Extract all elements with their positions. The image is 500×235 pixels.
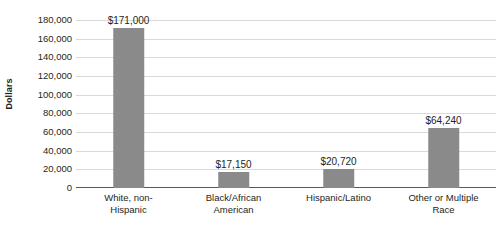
x-axis-category-label: Black/AfricanAmerican <box>181 192 286 215</box>
x-axis-category-label-line: Hispanic/Latino <box>306 192 371 203</box>
y-axis-tick-label: 180,000 <box>38 15 72 25</box>
bar-value-label: $64,240 <box>425 115 461 126</box>
x-axis-category-labels: White, non-HispanicBlack/AfricanAmerican… <box>76 192 496 232</box>
x-axis-category-label-line: Black/African <box>206 192 261 203</box>
y-axis-tick-label: 40,000 <box>43 146 72 156</box>
x-axis-category-label: White, non-Hispanic <box>76 192 181 215</box>
bar-value-label: $20,720 <box>320 156 356 167</box>
y-axis-tick-label: 160,000 <box>38 34 72 44</box>
y-axis-tick-label: 60,000 <box>43 127 72 137</box>
y-axis-title: Dollars <box>0 0 18 188</box>
x-axis-category-label-line: White, non- <box>104 192 153 203</box>
y-axis-tick-label: 140,000 <box>38 52 72 62</box>
y-axis-tick-label: 20,000 <box>43 164 72 174</box>
bar-value-label: $17,150 <box>215 159 251 170</box>
bar-slot: $171,000 <box>76 20 181 188</box>
x-axis-category-label-line: Hispanic <box>76 204 181 216</box>
bar-slot: $20,720 <box>286 20 391 188</box>
y-axis-tick-label: 0 <box>67 183 72 193</box>
x-axis-category-label-line: Other or Multiple <box>408 192 478 203</box>
plot-area: $171,000$17,150$20,720$64,240 <box>76 20 496 188</box>
y-axis-tick-label: 120,000 <box>38 71 72 81</box>
bar <box>428 128 460 188</box>
y-axis-tick-labels: 180,000160,000140,000120,000100,00080,00… <box>18 0 76 188</box>
x-axis-category-label: Hispanic/Latino <box>286 192 391 204</box>
bar-value-label: $171,000 <box>108 15 150 26</box>
x-axis-category-label-line: American <box>181 204 286 216</box>
x-axis-category-label-line: Race <box>391 204 496 216</box>
y-axis-title-label: Dollars <box>4 78 14 109</box>
y-axis-tick-label: 100,000 <box>38 90 72 100</box>
bar-chart-figure: Dollars 180,000160,000140,000120,000100,… <box>0 0 500 235</box>
bar <box>113 28 145 188</box>
y-axis-tick-label: 80,000 <box>43 108 72 118</box>
x-axis-category-label: Other or MultipleRace <box>391 192 496 215</box>
bar <box>323 169 355 188</box>
bar-slot: $17,150 <box>181 20 286 188</box>
bar-series: $171,000$17,150$20,720$64,240 <box>76 20 496 188</box>
bar-slot: $64,240 <box>391 20 496 188</box>
bar <box>218 172 250 188</box>
